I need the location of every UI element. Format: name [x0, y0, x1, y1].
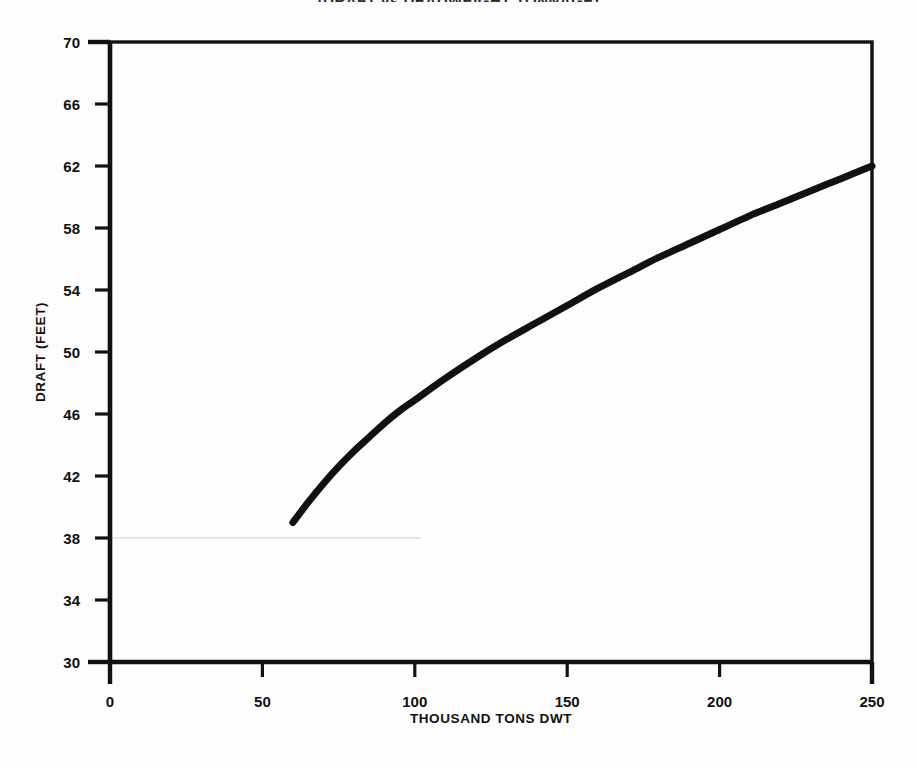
y-tick-label: 38: [63, 530, 80, 547]
x-axis-title: THOUSAND TONS DWT: [410, 711, 572, 726]
data-curve: [293, 166, 872, 523]
y-tick-label: 54: [63, 282, 80, 299]
y-tick-label: 70: [63, 34, 80, 51]
x-tick-label: 50: [254, 693, 271, 710]
tick-mark-layer: [88, 42, 872, 684]
draft-vs-dwt-line-chart: 3034384246505458626670050100150200250 TH…: [0, 0, 917, 768]
y-tick-label: 50: [63, 344, 80, 361]
tick-label-layer: 3034384246505458626670050100150200250: [63, 34, 884, 711]
chart-figure: (DRAFT vs DEADWEIGHT TONNAGE) 3034384246…: [0, 0, 917, 768]
x-tick-label: 150: [555, 693, 580, 710]
x-tick-label: 0: [106, 693, 114, 710]
data-series-layer: [293, 166, 872, 523]
y-tick-label: 42: [63, 468, 80, 485]
y-tick-label: 30: [63, 654, 80, 671]
y-tick-label: 34: [63, 592, 80, 609]
y-tick-label: 46: [63, 406, 80, 423]
y-axis-title: DRAFT (FEET): [33, 302, 48, 402]
y-tick-label: 66: [63, 96, 80, 113]
x-tick-label: 250: [859, 693, 884, 710]
x-tick-label: 100: [402, 693, 427, 710]
x-tick-label: 200: [707, 693, 732, 710]
y-tick-label: 62: [63, 158, 80, 175]
y-tick-label: 58: [63, 220, 80, 237]
